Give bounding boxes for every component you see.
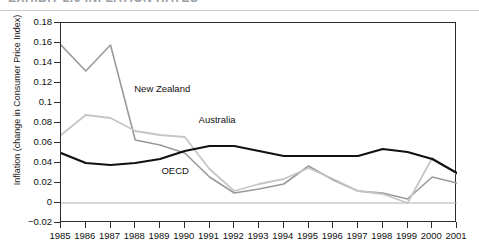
y-tick-label: 0.1 — [0, 97, 52, 107]
title-divider-rule — [0, 10, 479, 11]
y-tick-label: 0.06 — [0, 137, 52, 147]
series-canvas — [61, 23, 457, 223]
y-tick-label: 0.08 — [0, 117, 52, 127]
y-tick-label: 0.18 — [0, 17, 52, 27]
y-tick-label: 0 — [0, 197, 52, 207]
clipped-title-strip: EXHIBIT 2.6 INFLATION RATES — [0, 0, 479, 9]
chart-figure: EXHIBIT 2.6 INFLATION RATES Inflation (c… — [0, 0, 479, 250]
y-tick-label: 0.04 — [0, 157, 52, 167]
series-label-australia: Australia — [199, 114, 236, 125]
series-label-new-zealand: New Zealand — [134, 83, 190, 94]
series-line-oecd — [61, 146, 457, 173]
plot-area — [60, 22, 456, 222]
series-label-oecd: OECD — [161, 165, 188, 176]
y-tick-label: 0.16 — [0, 37, 52, 47]
exhibit-title: EXHIBIT 2.6 INFLATION RATES — [8, 0, 198, 5]
y-tick-label: −0.02 — [0, 217, 52, 227]
y-tick-label: 0.12 — [0, 77, 52, 87]
y-tick-label: 0.02 — [0, 177, 52, 187]
series-line-new-zealand — [61, 45, 457, 199]
series-layer — [61, 45, 457, 203]
y-tick-label: 0.14 — [0, 57, 52, 67]
x-tick-label: 2001 — [436, 230, 476, 241]
